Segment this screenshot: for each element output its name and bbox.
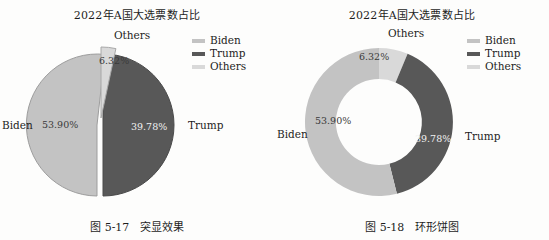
donut-slice-trump[interactable] [389, 54, 453, 194]
pie-category-label-biden: Biden [2, 119, 33, 131]
legend-label-trump: Trump [210, 47, 245, 60]
legend-swatch-biden-icon [192, 39, 205, 43]
legend-label-biden: Biden [210, 34, 241, 47]
pie-label-biden-percent: 53.90% [42, 119, 78, 130]
legend-left: Biden Trump Others [192, 34, 272, 73]
legend-label-biden: Biden [485, 34, 516, 47]
legend-label-others: Others [210, 60, 246, 73]
pie-category-label-trump: Trump [188, 119, 224, 131]
legend-swatch-others-icon [467, 65, 480, 69]
legend-item-trump[interactable]: Trump [467, 47, 547, 60]
legend-swatch-biden-icon [467, 39, 480, 43]
donut-category-label-biden: Biden [277, 128, 308, 140]
donut-category-label-trump: Trump [465, 130, 501, 142]
pie-label-trump-percent: 39.78% [131, 121, 167, 132]
donut-label-biden-percent: 53.90% [315, 115, 351, 126]
legend-swatch-trump-icon [192, 52, 205, 56]
legend-item-others[interactable]: Others [467, 60, 547, 73]
legend-item-trump[interactable]: Trump [192, 47, 272, 60]
figure-caption-left: 图 5-17 突显效果 [0, 218, 274, 234]
pie-label-others-percent: 6.32% [99, 55, 129, 66]
donut-label-trump-percent: 39.78% [415, 133, 451, 144]
donut-category-label-others: Others [388, 27, 424, 39]
pie-category-label-others: Others [114, 29, 150, 41]
donut-label-others-percent: 6.32% [359, 51, 389, 62]
figure-exploded-pie: 2022年A国大选票数占比 53.90% 39.78% 6.32% Biden … [0, 0, 274, 240]
figure-caption-right: 图 5-18 环形饼图 [275, 218, 549, 234]
legend-right: Biden Trump Others [467, 34, 547, 73]
legend-label-others: Others [485, 60, 521, 73]
legend-label-trump: Trump [485, 47, 520, 60]
legend-item-others[interactable]: Others [192, 60, 272, 73]
legend-swatch-trump-icon [467, 52, 480, 56]
legend-item-biden[interactable]: Biden [467, 34, 547, 47]
figure-donut-pie: 2022年A国大选票数占比 53.90% 39.78% 6.32% Biden … [275, 0, 549, 240]
legend-item-biden[interactable]: Biden [192, 34, 272, 47]
legend-swatch-others-icon [192, 65, 205, 69]
